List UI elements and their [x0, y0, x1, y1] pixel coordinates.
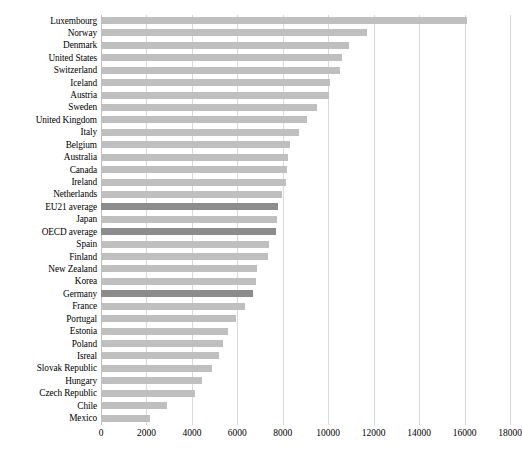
bar-chile — [101, 402, 167, 409]
x-axis-line — [101, 425, 511, 426]
plot-area — [101, 15, 510, 425]
bar-row — [101, 127, 510, 140]
bar-row — [101, 90, 510, 103]
bar-mexico — [101, 415, 150, 422]
bar-rows — [101, 15, 510, 425]
y-label-new-zealand: New Zealand — [0, 264, 97, 274]
bar-italy — [101, 129, 299, 136]
bar-germany — [101, 290, 253, 297]
x-tick-6000: 6000 — [228, 427, 247, 439]
bar-new-zealand — [101, 265, 257, 272]
bar-portugal — [101, 315, 236, 322]
bar-row — [101, 338, 510, 351]
bar-korea — [101, 278, 256, 285]
bar-row — [101, 263, 510, 276]
x-tick-2000: 2000 — [137, 427, 156, 439]
bar-france — [101, 303, 245, 310]
bar-row — [101, 350, 510, 363]
bar-row — [101, 15, 510, 28]
bar-row — [101, 288, 510, 301]
y-label-united-kingdom: United Kingdom — [0, 115, 97, 125]
bar-poland — [101, 340, 223, 347]
y-label-spain: Spain — [0, 239, 97, 249]
y-label-oecd-average: OECD average — [0, 227, 97, 237]
y-label-united-states: United States — [0, 53, 97, 63]
y-label-luxembourg: Luxembourg — [0, 16, 97, 26]
bar-row — [101, 226, 510, 239]
bar-switzerland — [101, 67, 340, 74]
bar-row — [101, 102, 510, 115]
x-tick-12000: 12000 — [362, 427, 386, 439]
y-label-japan: Japan — [0, 214, 97, 224]
y-label-ireland: Ireland — [0, 177, 97, 187]
bar-hungary — [101, 377, 202, 384]
bar-spain — [101, 241, 269, 248]
bar-row — [101, 40, 510, 53]
bar-row — [101, 388, 510, 401]
bar-row — [101, 413, 510, 426]
y-label-sweden: Sweden — [0, 102, 97, 112]
x-tick-8000: 8000 — [273, 427, 292, 439]
x-tick-10000: 10000 — [316, 427, 340, 439]
bar-row — [101, 276, 510, 289]
bar-row — [101, 251, 510, 264]
bar-ireland — [101, 179, 286, 186]
bar-norway — [101, 29, 367, 36]
y-label-iceland: Iceland — [0, 78, 97, 88]
bar-row — [101, 400, 510, 413]
gridline-18000 — [510, 15, 511, 425]
y-label-isreal: Isreal — [0, 351, 97, 361]
x-axis-tick-labels: 0200040006000800010000120001400016000180… — [101, 427, 510, 441]
y-label-czech-republic: Czech Republic — [0, 388, 97, 398]
x-tick-4000: 4000 — [182, 427, 201, 439]
bar-row — [101, 301, 510, 314]
bar-row — [101, 65, 510, 78]
y-label-belgium: Belgium — [0, 140, 97, 150]
bar-slovak-republic — [101, 365, 212, 372]
y-label-germany: Germany — [0, 289, 97, 299]
bar-row — [101, 363, 510, 376]
bar-row — [101, 139, 510, 152]
y-axis-category-labels: LuxembourgNorwayDenmarkUnited StatesSwit… — [0, 15, 97, 425]
y-label-mexico: Mexico — [0, 413, 97, 423]
bar-row — [101, 114, 510, 127]
bar-estonia — [101, 328, 228, 335]
y-label-norway: Norway — [0, 28, 97, 38]
bar-united-kingdom — [101, 116, 307, 123]
bar-row — [101, 375, 510, 388]
bar-japan — [101, 216, 277, 223]
bar-row — [101, 164, 510, 177]
bar-finland — [101, 253, 268, 260]
bar-isreal — [101, 352, 219, 359]
bar-row — [101, 27, 510, 40]
y-label-estonia: Estonia — [0, 326, 97, 336]
bar-row — [101, 214, 510, 227]
bar-row — [101, 177, 510, 190]
x-tick-0: 0 — [99, 427, 104, 439]
bar-united-states — [101, 54, 342, 61]
y-label-switzerland: Switzerland — [0, 65, 97, 75]
y-label-eu21-average: EU21 average — [0, 202, 97, 212]
bar-row — [101, 313, 510, 326]
bar-row — [101, 326, 510, 339]
bar-canada — [101, 166, 287, 173]
y-label-slovak-republic: Slovak Republic — [0, 363, 97, 373]
x-tick-14000: 14000 — [407, 427, 431, 439]
bar-denmark — [101, 42, 349, 49]
bar-sweden — [101, 104, 317, 111]
bar-oecd-average — [101, 228, 276, 235]
y-label-austria: Austria — [0, 90, 97, 100]
y-label-netherlands: Netherlands — [0, 189, 97, 199]
x-tick-16000: 16000 — [453, 427, 477, 439]
bar-australia — [101, 154, 288, 161]
bar-row — [101, 201, 510, 214]
x-tick-18000: 18000 — [498, 427, 522, 439]
y-label-korea: Korea — [0, 276, 97, 286]
y-label-chile: Chile — [0, 401, 97, 411]
y-label-canada: Canada — [0, 165, 97, 175]
bar-eu21-average — [101, 203, 278, 210]
bar-czech-republic — [101, 390, 195, 397]
y-label-france: France — [0, 301, 97, 311]
bar-austria — [101, 92, 329, 99]
